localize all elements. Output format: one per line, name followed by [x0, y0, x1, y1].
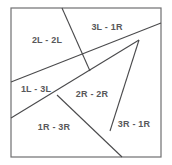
region-label-2R-2R: 2R - 2R	[76, 89, 108, 99]
region-label-1L-3L: 1L - 3L	[21, 84, 51, 94]
region-label-2L-2L: 2L - 2L	[32, 35, 62, 45]
region-label-3L-1R: 3L - 1R	[91, 22, 122, 32]
partition-svg	[0, 0, 172, 165]
region-label-1R-3R: 1R - 3R	[38, 122, 70, 132]
partition-diagram: 2L - 2L 3L - 1R 1L - 3L 2R - 2R 1R - 3R …	[0, 0, 172, 165]
region-label-3R-1R: 3R - 1R	[118, 119, 150, 129]
diagram-frame-border	[11, 8, 161, 157]
